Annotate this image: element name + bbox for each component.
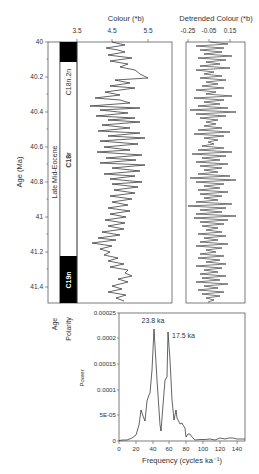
freq-axis-label: Frequency (cycles ka⁻¹)	[142, 456, 222, 465]
svg-text:5E-05: 5E-05	[99, 411, 116, 418]
figure: Colour (*b) Detrended Colour (*b) 3.5 4.…	[0, 0, 259, 474]
svg-text:40.8: 40.8	[30, 178, 43, 185]
svg-text:60: 60	[166, 445, 173, 452]
colour-curve	[90, 42, 148, 301]
svg-text:40.2: 40.2	[30, 73, 43, 80]
age-axis-label: Age (Ma)	[15, 156, 24, 187]
svg-text:40: 40	[36, 38, 44, 45]
svg-text:0: 0	[113, 437, 117, 444]
svg-text:40: 40	[150, 445, 157, 452]
chron-c18n2n: C18n.2n	[65, 69, 72, 96]
colour-title: Colour (*b)	[108, 14, 145, 23]
power-ticks: 0.00025 0.0002 0.00015 0.0001 5E-05 0	[94, 309, 117, 444]
age-ticks: 40 40.2 40.4 40.6 40.8 41 41.2 41.4	[30, 38, 43, 290]
svg-text:0.15: 0.15	[224, 27, 237, 34]
svg-text:0.0001: 0.0001	[97, 386, 116, 393]
polarity-column: C18n.2n C18r C19n	[60, 42, 77, 303]
freq-ticks: 0 20 40 60 80 100 120 140	[117, 445, 242, 452]
svg-text:20: 20	[133, 445, 140, 452]
svg-text:4.5: 4.5	[107, 27, 116, 34]
svg-text:40.4: 40.4	[30, 108, 43, 115]
epoch-label: Late Mid-Eocene	[51, 145, 58, 198]
colour-x-ticks: 3.5 4.5 5.5	[72, 27, 152, 34]
chron-c19n: C19n	[65, 271, 72, 288]
polarity-normal-c18n2n	[60, 42, 77, 62]
svg-text:0.00025: 0.00025	[94, 309, 117, 316]
polarity-footer-label: Polarity	[65, 317, 73, 341]
peak-label-23-8ka: 23.8 ka	[142, 317, 165, 324]
detrended-curve	[188, 42, 236, 302]
svg-text:41.4: 41.4	[30, 283, 43, 290]
chron-c18r: C18r	[65, 152, 72, 168]
svg-text:3.5: 3.5	[72, 27, 81, 34]
svg-text:5.5: 5.5	[143, 27, 152, 34]
svg-text:41.2: 41.2	[30, 248, 43, 255]
svg-text:0.00015: 0.00015	[94, 360, 117, 367]
detrended-x-ticks: -0.25 -0.05 0.15	[181, 27, 237, 34]
svg-text:41: 41	[36, 213, 44, 220]
detrended-title: Detrended Colour (*b)	[179, 14, 253, 23]
svg-text:0: 0	[117, 445, 121, 452]
svg-text:40.6: 40.6	[30, 143, 43, 150]
peak-label-17-5ka: 17.5 ka	[172, 332, 195, 339]
svg-text:100: 100	[198, 445, 209, 452]
svg-text:-0.05: -0.05	[202, 27, 217, 34]
svg-text:140: 140	[232, 445, 243, 452]
spectrum-curve	[119, 329, 245, 441]
power-axis-label: Power	[79, 369, 85, 386]
svg-text:120: 120	[215, 445, 226, 452]
age-footer-label: Age	[51, 318, 59, 331]
svg-text:80: 80	[183, 445, 190, 452]
svg-text:-0.25: -0.25	[181, 27, 196, 34]
svg-text:0.0002: 0.0002	[97, 334, 116, 341]
